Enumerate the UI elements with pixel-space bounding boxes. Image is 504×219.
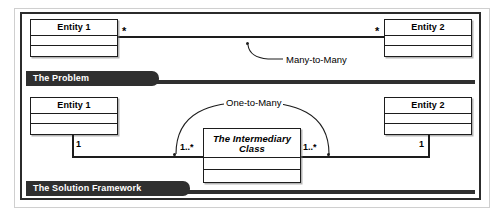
solution-left-entity-multiplicity: 1 <box>76 140 81 149</box>
solution-arc-label: One-to-Many <box>224 98 283 108</box>
solution-intermediary-title: The Intermediary Class <box>204 129 300 158</box>
solution-intermediary-attributes <box>204 158 300 170</box>
solution-right-intermediary-multiplicity: 1..* <box>303 143 317 152</box>
diagram-stage: Entity 1 Entity 2 * * Many-to-Many The P… <box>0 0 504 219</box>
solution-right-entity-multiplicity: 1 <box>419 140 424 149</box>
solution-banner-rule <box>176 190 475 194</box>
solution-banner-label: The Solution Framework <box>33 183 141 193</box>
solution-intermediary-title-line1: The Intermediary <box>213 134 291 144</box>
solution-left-intermediary-multiplicity: 1..* <box>180 143 194 152</box>
solution-banner: The Solution Framework <box>26 181 475 196</box>
solution-intermediary-box[interactable]: The Intermediary Class <box>203 128 301 183</box>
solution-intermediary-title-line2: Class <box>239 144 265 154</box>
uml-figure: Entity 1 Entity 2 * * Many-to-Many The P… <box>0 0 504 219</box>
